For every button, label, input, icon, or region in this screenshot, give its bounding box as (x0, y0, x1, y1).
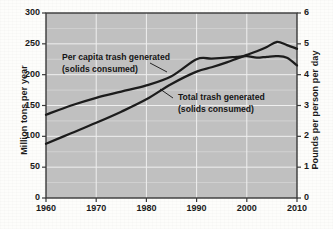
left-tick-label-0: 0 (8, 192, 40, 202)
right-axis-title: Pounds per person per day (310, 40, 320, 180)
left-tick-label-250: 250 (8, 38, 40, 48)
plot-area (0, 0, 333, 229)
annotation-per-capita-line1: Per capita trash generated (62, 52, 170, 64)
annotation-total-trash-line2: (solids consumed) (178, 104, 265, 116)
right-tick-label-1: 1 (304, 161, 324, 171)
x-tick-label-2000: 2000 (231, 203, 263, 213)
annotation-total-trash-line1: Total trash generated (178, 92, 265, 104)
left-tick-label-100: 100 (8, 130, 40, 140)
right-tick-label-0: 0 (304, 192, 324, 202)
annotation-per-capita-line2: (solids consumed) (62, 64, 170, 76)
trash-generation-line-chart: Million tons per year Pounds per person … (0, 0, 333, 229)
left-tick-label-50: 50 (8, 161, 40, 171)
right-tick-label-3: 3 (304, 100, 324, 110)
x-tick-label-2010: 2010 (281, 203, 313, 213)
left-tick-label-200: 200 (8, 69, 40, 79)
x-tick-label-1960: 1960 (30, 203, 62, 213)
right-tick-label-6: 6 (304, 7, 324, 17)
left-tick-label-300: 300 (8, 7, 40, 17)
right-tick-label-2: 2 (304, 130, 324, 140)
right-tick-label-4: 4 (304, 69, 324, 79)
x-tick-label-1980: 1980 (130, 203, 162, 213)
chart-page: Million tons per year Pounds per person … (0, 0, 333, 229)
annotation-per-capita-trash: Per capita trash generated (solids consu… (62, 52, 170, 75)
left-axis-title: Million tons per year (19, 40, 29, 180)
x-tick-label-1990: 1990 (181, 203, 213, 213)
right-tick-label-5: 5 (304, 38, 324, 48)
x-tick-label-1970: 1970 (80, 203, 112, 213)
left-tick-label-150: 150 (8, 100, 40, 110)
annotation-total-trash: Total trash generated (solids consumed) (178, 92, 265, 115)
